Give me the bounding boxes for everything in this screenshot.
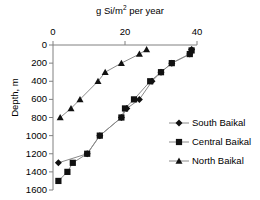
legend-label: North Baikal bbox=[190, 155, 244, 166]
data-point-square bbox=[97, 133, 103, 139]
data-point-triangle bbox=[136, 51, 143, 57]
data-point-square bbox=[118, 114, 124, 120]
legend-label: Central Baikal bbox=[190, 136, 251, 147]
data-point-square bbox=[84, 151, 90, 157]
legend-marker-triangle-icon bbox=[168, 155, 190, 167]
data-point-square bbox=[131, 96, 137, 102]
data-point-square bbox=[64, 169, 70, 175]
data-point-triangle bbox=[143, 46, 150, 52]
data-point-square bbox=[147, 78, 153, 84]
data-point-square bbox=[187, 51, 193, 57]
legend-item-north-baikal[interactable]: North Baikal bbox=[168, 151, 251, 170]
data-point-square bbox=[158, 69, 164, 75]
data-point-square bbox=[70, 160, 76, 166]
legend-item-central-baikal[interactable]: Central Baikal bbox=[168, 132, 251, 151]
data-point-triangle bbox=[102, 69, 109, 75]
legend-item-south-baikal[interactable]: South Baikal bbox=[168, 113, 251, 132]
legend-marker-diamond-icon bbox=[168, 117, 190, 129]
chart-legend: South BaikalCentral BaikalNorth Baikal bbox=[168, 113, 251, 170]
data-point-diamond bbox=[176, 119, 183, 126]
data-point-square bbox=[176, 138, 182, 144]
data-point-square bbox=[122, 105, 128, 111]
series-north-baikal bbox=[57, 46, 150, 120]
data-point-diamond bbox=[55, 159, 62, 166]
chart-container: g Si/m2 per year Depth, m 02040 02004006… bbox=[0, 0, 260, 200]
data-point-square bbox=[55, 178, 61, 184]
data-point-triangle bbox=[118, 60, 125, 66]
series-line bbox=[60, 50, 146, 118]
data-point-square bbox=[169, 60, 175, 66]
legend-label: South Baikal bbox=[190, 117, 245, 128]
plot-area bbox=[0, 0, 260, 200]
legend-marker-square-icon bbox=[168, 136, 190, 148]
